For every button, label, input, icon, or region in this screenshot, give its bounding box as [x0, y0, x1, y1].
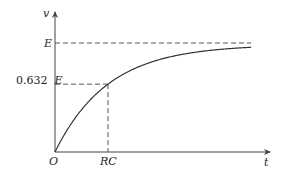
ytick-0632-E: E — [54, 74, 63, 87]
x-axis-label: t — [264, 156, 269, 169]
xtick-label-RC: RC — [99, 155, 117, 168]
origin-label: O — [49, 155, 58, 168]
charging-curve-chart: v t O RC E 0.632 E — [0, 0, 282, 172]
ytick-label-0632E: 0.632 E — [16, 70, 63, 87]
ytick-label-E: E — [43, 37, 52, 50]
ytick-0632-number: 0.632 — [16, 74, 48, 87]
y-axis-label: v — [43, 7, 50, 20]
charging-curve — [55, 47, 251, 152]
